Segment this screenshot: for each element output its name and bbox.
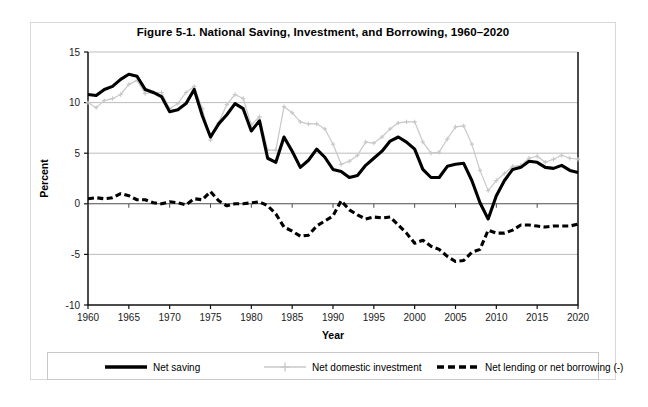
series-marker <box>159 90 163 94</box>
x-axis-label: Year <box>322 329 344 341</box>
svg-text:1960: 1960 <box>77 312 100 323</box>
series-marker <box>576 157 580 161</box>
legend-item-net-saving: Net saving <box>104 353 200 381</box>
legend-label-net-domestic-investment: Net domestic investment <box>312 362 422 373</box>
series-marker <box>551 157 555 161</box>
svg-text:2015: 2015 <box>526 312 549 323</box>
series-marker <box>568 156 572 160</box>
legend-swatch-solid-icon <box>104 361 148 373</box>
svg-text:2005: 2005 <box>444 312 467 323</box>
svg-text:10: 10 <box>69 97 81 108</box>
series-line-2 <box>88 192 578 262</box>
svg-text:1975: 1975 <box>199 312 222 323</box>
series-marker <box>559 153 563 157</box>
chart-svg: -10-5051015 1960196519701975198019851990… <box>0 0 648 407</box>
svg-text:2010: 2010 <box>485 312 508 323</box>
y-tick-labels: -10-5051015 <box>66 47 81 311</box>
svg-text:1980: 1980 <box>240 312 263 323</box>
series-marker <box>461 124 465 128</box>
svg-text:2020: 2020 <box>567 312 590 323</box>
legend-swatch-dashed-icon <box>436 361 480 373</box>
legend-label-net-lending-borrowing: Net lending or net borrowing (-) <box>485 362 623 373</box>
series-marker <box>274 148 278 152</box>
svg-text:1990: 1990 <box>322 312 345 323</box>
y-axis-label: Percent <box>38 159 50 198</box>
series-marker <box>110 96 114 100</box>
series-marker <box>478 168 482 172</box>
svg-text:1970: 1970 <box>159 312 182 323</box>
series-marker <box>241 96 245 100</box>
legend-item-net-lending-borrowing: Net lending or net borrowing (-) <box>436 353 623 381</box>
chart-legend: Net saving Net domestic investment Net l… <box>47 352 599 380</box>
series-marker <box>412 120 416 124</box>
legend-item-net-domestic-investment: Net domestic investment <box>263 353 422 381</box>
svg-text:5: 5 <box>74 148 80 159</box>
series-marker <box>306 122 310 126</box>
svg-text:-5: -5 <box>71 249 80 260</box>
svg-text:-10: -10 <box>66 300 81 311</box>
x-tick-labels: 1960196519701975198019851990199520002005… <box>77 312 590 323</box>
series-marker <box>339 162 343 166</box>
svg-text:1995: 1995 <box>363 312 386 323</box>
svg-text:1965: 1965 <box>118 312 141 323</box>
series-line-0 <box>88 74 578 219</box>
svg-text:15: 15 <box>69 47 81 58</box>
series-marker <box>404 120 408 124</box>
svg-text:2000: 2000 <box>404 312 427 323</box>
series-marker <box>331 142 335 146</box>
gridlines <box>88 52 578 254</box>
svg-text:1985: 1985 <box>281 312 304 323</box>
legend-label-net-saving: Net saving <box>153 362 200 373</box>
chart-plot-area: -10-5051015 1960196519701975198019851990… <box>0 0 648 407</box>
legend-swatch-marker-line-icon <box>263 361 307 373</box>
svg-text:0: 0 <box>74 198 80 209</box>
series-marker <box>470 142 474 146</box>
